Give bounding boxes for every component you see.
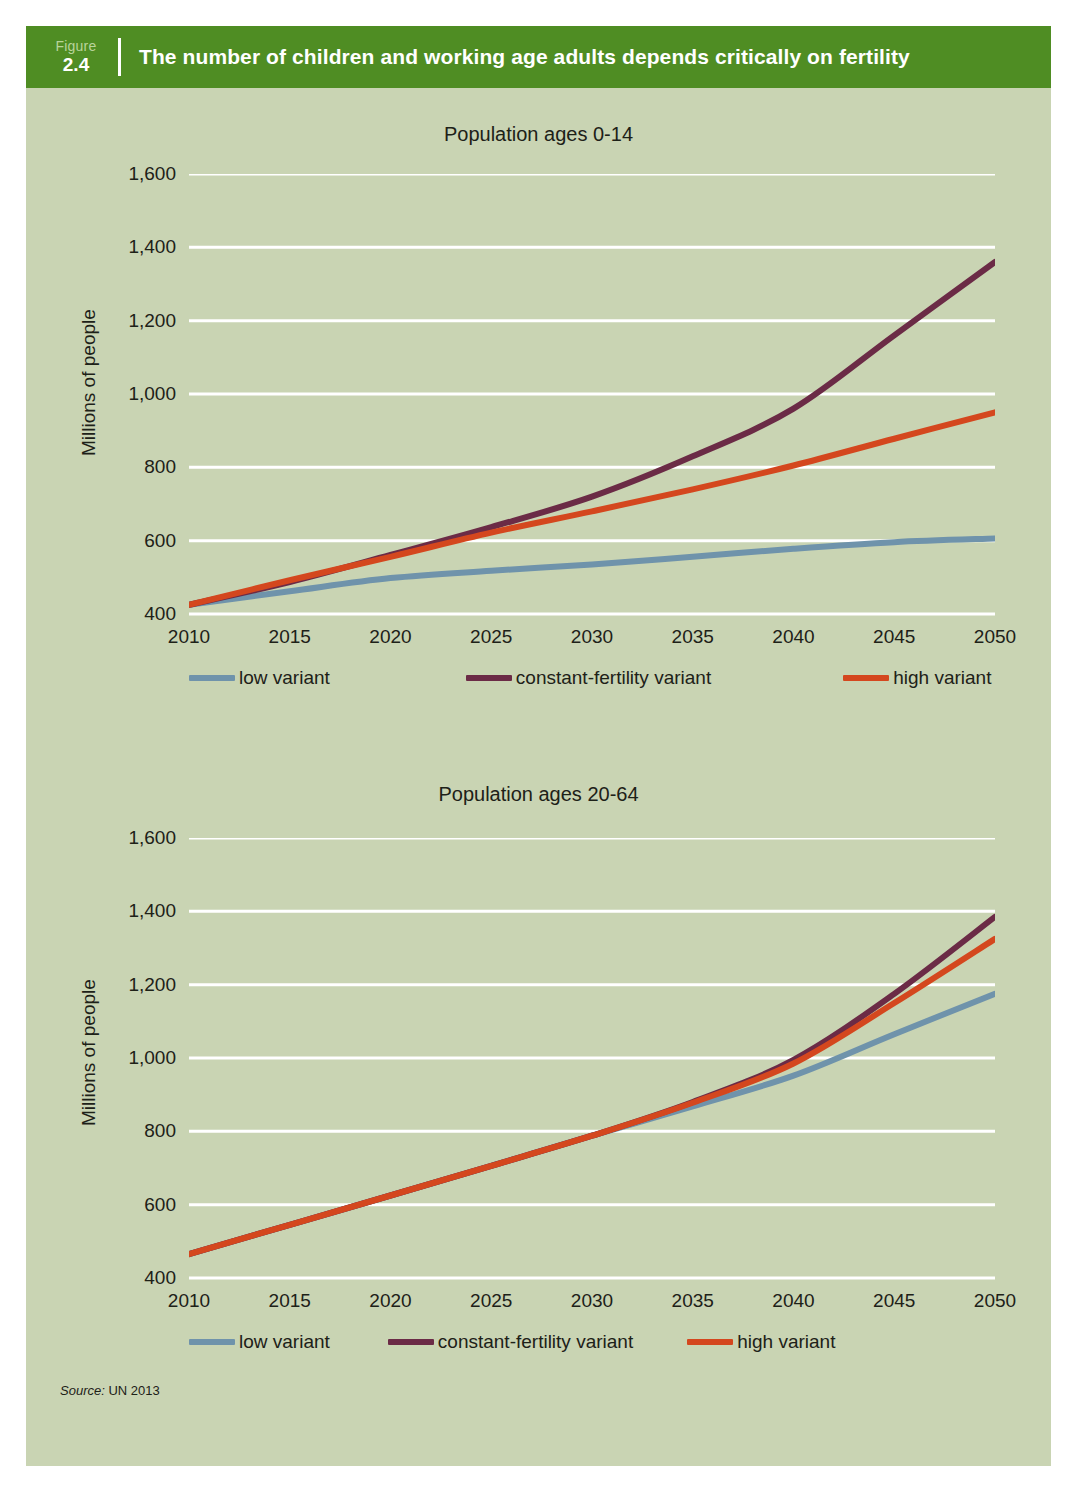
header-divider bbox=[118, 38, 121, 76]
chart-1-plot-area bbox=[189, 174, 995, 616]
chart-1-title: Population ages 0-14 bbox=[26, 123, 1051, 146]
y-tick-label: 600 bbox=[86, 530, 176, 552]
x-tick-label: 2045 bbox=[854, 626, 934, 648]
series-line-high-variant bbox=[189, 412, 995, 604]
x-tick-label: 2015 bbox=[250, 626, 330, 648]
legend-item-low-variant[interactable]: low variant bbox=[189, 667, 330, 689]
legend-label: high variant bbox=[893, 667, 991, 689]
chart-1-svg bbox=[189, 174, 995, 616]
source-text: UN 2013 bbox=[108, 1383, 159, 1398]
x-tick-label: 2040 bbox=[754, 1290, 834, 1312]
y-tick-label: 1,000 bbox=[86, 383, 176, 405]
y-tick-label: 400 bbox=[86, 1267, 176, 1289]
y-tick-label: 1,400 bbox=[86, 900, 176, 922]
x-tick-label: 2015 bbox=[250, 1290, 330, 1312]
legend-item-constant-fertility-variant[interactable]: constant-fertility variant bbox=[388, 1331, 633, 1353]
figure-number-block: Figure 2.4 bbox=[38, 39, 114, 75]
legend-swatch-icon bbox=[189, 1339, 235, 1345]
x-tick-label: 2020 bbox=[351, 1290, 431, 1312]
chart-2-title: Population ages 20-64 bbox=[26, 783, 1051, 806]
legend-item-high-variant[interactable]: high variant bbox=[843, 667, 991, 689]
legend-label: low variant bbox=[239, 1331, 330, 1353]
y-tick-label: 1,200 bbox=[86, 974, 176, 996]
y-tick-label: 1,600 bbox=[86, 827, 176, 849]
x-tick-label: 2035 bbox=[653, 626, 733, 648]
figure-word-label: Figure bbox=[56, 39, 97, 54]
chart-2-plot-area bbox=[189, 838, 995, 1280]
x-tick-label: 2045 bbox=[854, 1290, 934, 1312]
series-line-low-variant bbox=[189, 994, 995, 1254]
chart-2-legend: low variantconstant-fertility varianthig… bbox=[189, 1331, 835, 1353]
legend-item-constant-fertility-variant[interactable]: constant-fertility variant bbox=[466, 667, 711, 689]
x-tick-label: 2030 bbox=[552, 626, 632, 648]
legend-swatch-icon bbox=[388, 1339, 434, 1345]
y-tick-label: 600 bbox=[86, 1194, 176, 1216]
figure-title: The number of children and working age a… bbox=[139, 45, 910, 69]
figure-panel: Figure 2.4 The number of children and wo… bbox=[26, 26, 1051, 1466]
y-tick-label: 800 bbox=[86, 456, 176, 478]
legend-item-low-variant[interactable]: low variant bbox=[189, 1331, 330, 1353]
y-tick-label: 1,400 bbox=[86, 236, 176, 258]
x-tick-label: 2020 bbox=[351, 626, 431, 648]
y-tick-label: 800 bbox=[86, 1120, 176, 1142]
chart-1-legend: low variantconstant-fertility varianthig… bbox=[189, 667, 991, 689]
x-tick-label: 2040 bbox=[754, 626, 834, 648]
legend-label: constant-fertility variant bbox=[438, 1331, 633, 1353]
legend-label: constant-fertility variant bbox=[516, 667, 711, 689]
source-prefix: Source: bbox=[60, 1383, 105, 1398]
y-tick-label: 1,000 bbox=[86, 1047, 176, 1069]
y-tick-label: 400 bbox=[86, 603, 176, 625]
chart-2-svg bbox=[189, 838, 995, 1280]
x-tick-label: 2035 bbox=[653, 1290, 733, 1312]
legend-swatch-icon bbox=[466, 675, 512, 681]
x-tick-label: 2025 bbox=[451, 626, 531, 648]
x-tick-label: 2030 bbox=[552, 1290, 632, 1312]
legend-swatch-icon bbox=[687, 1339, 733, 1345]
x-tick-label: 2010 bbox=[149, 1290, 229, 1312]
x-tick-label: 2010 bbox=[149, 626, 229, 648]
series-line-constant-fertility-variant bbox=[189, 262, 995, 605]
figure-header: Figure 2.4 The number of children and wo… bbox=[26, 26, 1051, 88]
legend-label: high variant bbox=[737, 1331, 835, 1353]
x-tick-label: 2050 bbox=[955, 626, 1035, 648]
series-line-low-variant bbox=[189, 538, 995, 604]
legend-swatch-icon bbox=[843, 675, 889, 681]
figure-number-label: 2.4 bbox=[63, 55, 89, 75]
y-tick-label: 1,600 bbox=[86, 163, 176, 185]
x-tick-label: 2025 bbox=[451, 1290, 531, 1312]
legend-swatch-icon bbox=[189, 675, 235, 681]
y-tick-label: 1,200 bbox=[86, 310, 176, 332]
source-note: Source: UN 2013 bbox=[60, 1383, 160, 1398]
x-tick-label: 2050 bbox=[955, 1290, 1035, 1312]
legend-item-high-variant[interactable]: high variant bbox=[687, 1331, 835, 1353]
legend-label: low variant bbox=[239, 667, 330, 689]
